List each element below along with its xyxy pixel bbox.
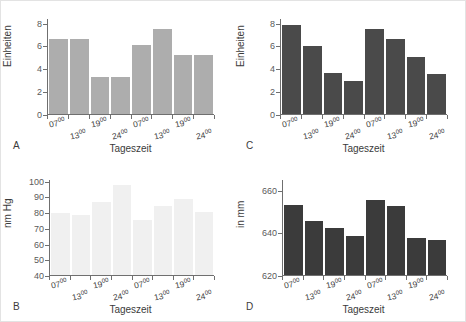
y-tick-label: 40 — [34, 272, 44, 281]
bar — [427, 74, 446, 114]
x-tick-label: 1300 — [71, 290, 89, 302]
y-tick-mark — [45, 245, 50, 246]
bar — [365, 29, 384, 114]
bar — [428, 240, 447, 275]
y-tick-label: 4 — [270, 65, 275, 74]
panel-letter-a: A — [13, 141, 20, 151]
bar — [111, 77, 130, 114]
bar — [174, 199, 193, 275]
bar — [194, 55, 213, 114]
bar — [387, 206, 406, 275]
x-tick-label-group-c: 07001300190024000700130019002400 — [280, 117, 447, 145]
chart-panel-a: Einheiten 02468 070013001900240007001300… — [1, 5, 234, 162]
y-tick-mark — [43, 92, 48, 93]
bar — [346, 236, 365, 275]
x-tick-label: 1900 — [407, 278, 425, 290]
bar — [113, 185, 132, 275]
y-tick-label: 50 — [34, 256, 44, 265]
plot-area-d: 620640660 — [282, 180, 447, 276]
x-tick-label-group-a: 07001300190024000700130019002400 — [47, 117, 214, 145]
y-tick-mark — [45, 213, 50, 214]
x-tick-label: 2400 — [195, 290, 213, 302]
y-tick-label: 8 — [270, 19, 275, 28]
y-tick-mark — [278, 191, 283, 192]
y-tick-mark — [45, 229, 50, 230]
plot-area-a: 02468 — [47, 19, 214, 115]
x-tick-label: 1300 — [387, 290, 405, 302]
x-tick-label: 1300 — [153, 129, 171, 141]
x-tick-mark — [214, 276, 215, 280]
y-tick-label: 90 — [34, 193, 44, 202]
y-tick-mark — [276, 69, 281, 70]
y-tick-mark — [43, 46, 48, 47]
bar — [154, 206, 173, 275]
bar — [284, 205, 303, 275]
y-tick-label: 80 — [34, 209, 44, 218]
y-tick-label: 70 — [34, 224, 44, 233]
x-tick-label: 0700 — [365, 117, 383, 129]
bar — [51, 213, 70, 275]
x-tick-label: 0700 — [132, 117, 150, 129]
x-axis-label-a: Tageszeit — [47, 144, 214, 154]
y-axis-label-a: Einheiten — [3, 25, 13, 67]
x-axis-label-d: Tageszeit — [280, 305, 447, 315]
bar — [344, 81, 363, 114]
panel-letter-b: B — [13, 302, 20, 312]
y-axis-label-b: nm Hg — [3, 199, 13, 228]
x-tick-label: 2400 — [195, 129, 213, 141]
x-tick-label: 0700 — [51, 278, 69, 290]
x-tick-label-group-d: 07001300190024000700130019002400 — [282, 278, 447, 306]
x-tick-label: 2400 — [428, 129, 446, 141]
y-tick-mark — [43, 69, 48, 70]
chart-panel-b: nm Hg 405060708090100 070013001900240007… — [1, 166, 234, 321]
y-tick-label: 640 — [262, 229, 277, 238]
y-tick-label: 0 — [270, 111, 275, 120]
bar-group-a — [48, 19, 214, 114]
bar — [324, 73, 343, 114]
x-tick-mark — [214, 115, 215, 119]
bar-group-c — [281, 19, 447, 114]
x-tick-label: 1900 — [407, 117, 425, 129]
bar — [153, 29, 172, 114]
bar — [386, 39, 405, 114]
bar — [195, 212, 214, 275]
x-tick-label: 2400 — [112, 290, 130, 302]
bar-group-b — [50, 180, 214, 275]
y-tick-mark — [45, 260, 50, 261]
y-tick-label: 6 — [270, 42, 275, 51]
y-tick-mark — [43, 24, 48, 25]
y-tick-mark — [276, 24, 281, 25]
x-tick-label: 1900 — [323, 117, 341, 129]
x-tick-label: 1300 — [154, 290, 172, 302]
y-tick-label: 2 — [270, 88, 275, 97]
panel-letter-c: C — [246, 141, 253, 151]
x-tick-label: 1900 — [325, 278, 343, 290]
y-tick-mark — [278, 233, 283, 234]
bar — [282, 25, 301, 114]
bar — [132, 45, 151, 114]
chart-panel-d: in mm 620640660 070013001900240007001300… — [234, 166, 466, 321]
y-tick-label: 660 — [262, 186, 277, 195]
y-tick-label: 0 — [37, 111, 42, 120]
chart-panel-c: Einheiten 02468 070013001900240007001300… — [234, 5, 466, 162]
bar — [92, 202, 111, 275]
y-tick-mark — [276, 46, 281, 47]
x-tick-label: 0700 — [366, 278, 384, 290]
y-tick-label: 6 — [37, 42, 42, 51]
y-tick-label: 620 — [262, 272, 277, 281]
x-tick-label: 2400 — [111, 129, 129, 141]
x-tick-label: 1900 — [92, 278, 110, 290]
bar — [325, 228, 344, 276]
x-tick-label: 1900 — [174, 278, 192, 290]
x-tick-label: 2400 — [428, 290, 446, 302]
bar — [407, 238, 426, 275]
y-tick-label: 8 — [37, 19, 42, 28]
bar — [72, 215, 91, 275]
x-tick-label-group-b: 07001300190024000700130019002400 — [49, 278, 214, 306]
bar — [305, 221, 324, 275]
y-tick-mark — [45, 182, 50, 183]
plot-area-c: 02468 — [280, 19, 447, 115]
y-tick-mark — [45, 197, 50, 198]
x-tick-label: 1900 — [174, 117, 192, 129]
x-tick-label: 1300 — [303, 129, 321, 141]
